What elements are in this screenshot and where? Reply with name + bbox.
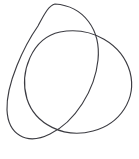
canvas-background (0, 0, 139, 159)
knot-figure-canvas (0, 0, 139, 159)
knot-diagram-svg (0, 0, 139, 159)
